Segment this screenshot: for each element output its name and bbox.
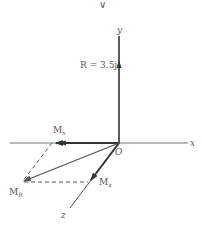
moment-z-label: Mz [99, 177, 112, 188]
resultant-force-arrowhead [117, 60, 122, 68]
moment-x-label: Mx [53, 125, 66, 136]
moment-vector-diagram: ∨ x y R = 3.5j z O Mx Mz MR [0, 0, 202, 228]
top-mark: ∨ [99, 0, 106, 10]
x-axis-label: x [190, 138, 195, 148]
origin-label: O [115, 147, 123, 157]
resultant-force-label: R = 3.5j [80, 60, 117, 70]
moment-resultant-label: MR [9, 187, 23, 198]
moment-x-double-arrowhead [58, 141, 66, 146]
y-axis-label: y [116, 25, 123, 35]
z-axis-label: z [60, 210, 66, 220]
